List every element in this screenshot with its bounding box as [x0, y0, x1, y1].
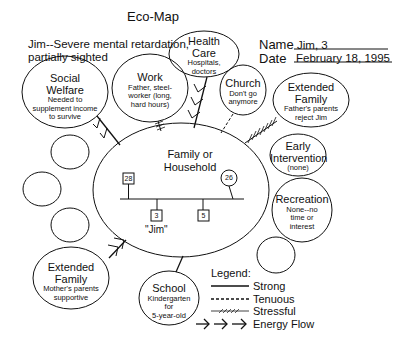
name-value: Jim, 3	[297, 40, 328, 52]
connection-school	[176, 256, 183, 272]
node-empty-ellipse	[23, 172, 61, 206]
legend-energy-flow-label: Energy Flow	[253, 319, 314, 330]
node-empty-ellipse	[257, 237, 295, 273]
node-desc: reject Jim	[276, 114, 346, 123]
connection-health-care	[194, 77, 207, 128]
node-title: Health	[174, 36, 234, 48]
node-title: Social	[22, 73, 108, 85]
legend-tenuous-label: Tenuous	[253, 294, 295, 305]
node-title: Church	[222, 78, 264, 90]
date-value: February 18, 1995	[296, 53, 390, 65]
node-desc: interest	[272, 223, 332, 232]
node-desc: 5-year-old	[139, 312, 199, 321]
member-mother-age: 26	[221, 174, 237, 181]
node-title: Extended	[276, 82, 346, 94]
legend-energy-flow-arrows	[196, 319, 246, 329]
date-label: Date	[259, 52, 286, 65]
family-title-line1: Family or	[167, 148, 212, 160]
member-jim-name: "Jim"	[145, 225, 168, 235]
member-sibling-age: 5	[198, 212, 209, 219]
node-desc: (none)	[270, 164, 326, 173]
node-title: Extended	[35, 262, 107, 274]
node-early-intervention: Early Intervention (none)	[270, 141, 326, 173]
node-church: Church Don't go anymore	[222, 78, 264, 107]
node-empty-ellipse	[51, 135, 89, 169]
legend-title: Legend:	[211, 268, 251, 279]
node-health-care: Health Care Hospitals, doctors	[174, 36, 234, 76]
node-extended-family-mother: Extended Family Mother's parents support…	[35, 262, 107, 302]
node-social-welfare: Social Welfare Needed to supplement inco…	[22, 73, 108, 122]
node-desc: to survive	[22, 113, 108, 122]
node-title: School	[139, 283, 199, 295]
node-extended-family-father: Extended Family Father's parents reject …	[276, 82, 346, 122]
node-empty-ellipse	[51, 208, 89, 242]
node-title: Early	[270, 141, 326, 153]
node-title: Recreation	[272, 194, 332, 206]
node-recreation: Recreation None--no time or interest	[272, 194, 332, 231]
legend-stressful-label: Stressful	[253, 306, 296, 317]
client-description-line1: Jim--Severe mental retardation,	[28, 38, 189, 51]
family-title-line2: Household	[164, 161, 217, 173]
node-desc: supportive	[35, 294, 107, 303]
client-description-line2: partially sighted	[28, 51, 108, 64]
node-desc: doctors	[174, 68, 234, 77]
node-desc: hard hours)	[115, 101, 185, 110]
legend-stressful-line	[211, 309, 249, 313]
connection-church	[221, 114, 233, 133]
node-work: Work Father, steel- worker (long, hard h…	[115, 72, 185, 109]
family-household-title: Family or Household	[150, 148, 230, 173]
legend-strong-label: Strong	[253, 281, 285, 292]
node-school: School Kindergarten for 5-year-old	[139, 283, 199, 320]
family-household-ellipse	[93, 123, 269, 257]
page-title: Eco-Map	[127, 10, 179, 23]
node-desc: anymore	[222, 98, 264, 107]
member-jim-age: 3	[151, 212, 162, 219]
name-label: Name	[259, 38, 294, 51]
member-father-age: 28	[123, 175, 134, 182]
